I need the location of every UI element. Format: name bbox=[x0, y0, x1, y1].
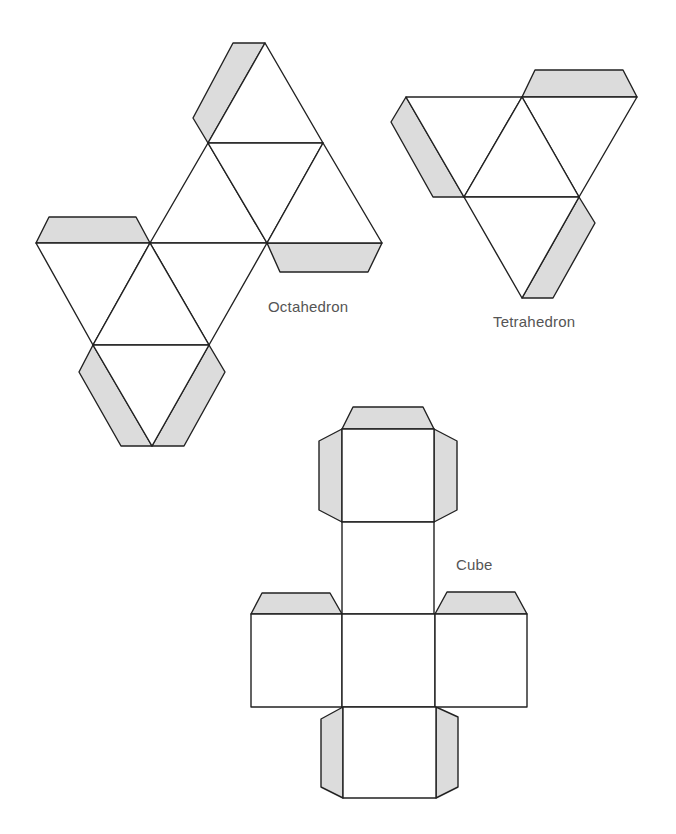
cube-face-top bbox=[342, 429, 434, 522]
octahedron-net bbox=[36, 43, 382, 446]
tetrahedron-tab-top bbox=[522, 70, 637, 97]
cube-tab-right bbox=[435, 592, 527, 614]
octahedron-label: Octahedron bbox=[268, 298, 348, 315]
cube-face-bottom bbox=[343, 707, 436, 798]
cube-face-center bbox=[342, 614, 435, 707]
cube-face-upper-middle bbox=[342, 522, 434, 614]
cube-label: Cube bbox=[456, 556, 493, 573]
cube-tab-top-right bbox=[434, 429, 457, 522]
cube-tab-left bbox=[251, 593, 342, 614]
cube-face-right bbox=[435, 614, 527, 707]
octahedron-tab-right bbox=[267, 243, 382, 272]
polyhedra-nets-diagram bbox=[0, 0, 676, 834]
cube-net bbox=[251, 407, 527, 798]
cube-tab-top-left bbox=[319, 429, 342, 522]
cube-tab-top bbox=[342, 407, 434, 429]
octahedron-tab-left bbox=[36, 217, 150, 243]
cube-tab-bottom-right bbox=[436, 707, 458, 798]
tetrahedron-net bbox=[391, 70, 637, 298]
cube-tab-bottom-left bbox=[321, 707, 343, 798]
cube-face-left bbox=[251, 614, 342, 707]
tetrahedron-label: Tetrahedron bbox=[493, 313, 575, 330]
